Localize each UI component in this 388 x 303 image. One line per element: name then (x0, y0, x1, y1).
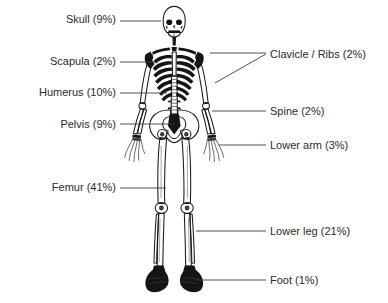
label-skull: Skull (9%) (46, 13, 116, 25)
skeleton-diagram: Skull (9%) Scapula (2%) Humerus (10%) Pe… (0, 0, 388, 303)
label-foot: Foot (1%) (270, 274, 360, 286)
label-clavicle-ribs: Clavicle / Ribs (2%) (270, 48, 388, 60)
label-spine: Spine (2%) (270, 105, 360, 117)
clavicle-group (152, 47, 196, 55)
right-arm-group (196, 62, 224, 162)
label-lower-arm: Lower arm (3%) (270, 139, 380, 151)
label-lower-leg: Lower leg (21%) (270, 225, 380, 237)
right-leg-group (180, 137, 203, 292)
pelvis-group (150, 110, 199, 143)
vertebrae-lines (171, 79, 177, 113)
label-scapula: Scapula (2%) (20, 55, 116, 67)
label-pelvis: Pelvis (9%) (26, 118, 116, 130)
left-arm-group (125, 62, 153, 162)
skeleton-illustration (0, 0, 388, 303)
right-hand-bones (203, 138, 223, 162)
ribcage-group (153, 52, 196, 101)
cervical-spine-group (173, 37, 177, 45)
vertebrae-processes (168, 80, 181, 109)
skull-group (163, 6, 185, 37)
left-hand-bones (125, 138, 145, 162)
left-leg-group (145, 137, 168, 292)
label-femur: Femur (41%) (18, 181, 116, 193)
label-humerus: Humerus (10%) (10, 86, 116, 98)
